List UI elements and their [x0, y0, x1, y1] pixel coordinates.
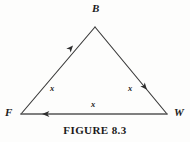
triangle-diagram — [0, 0, 190, 142]
side-length-label-bw: x — [128, 84, 132, 93]
side-length-label-fb: x — [50, 84, 54, 93]
side-bw-line — [95, 27, 167, 114]
side-length-label-fw: x — [91, 100, 95, 109]
vertex-label-w: W — [174, 107, 184, 118]
figure-container: B F W x x x FIGURE 8.3 — [0, 0, 190, 142]
side-fb-line — [21, 27, 95, 114]
vertex-label-b: B — [92, 3, 99, 14]
figure-caption: FIGURE 8.3 — [0, 124, 190, 136]
vertex-label-f: F — [5, 107, 12, 118]
